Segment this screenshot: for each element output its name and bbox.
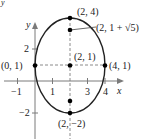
point-4-1	[103, 63, 108, 68]
figure-corner-mark: y	[0, 0, 5, 7]
y-tick-label: 2	[24, 43, 29, 54]
x-tick-label: 3	[85, 86, 90, 97]
point-label: (2, −2)	[58, 118, 85, 130]
point-label: (0, 1)	[1, 60, 23, 72]
y-axis-arrow-icon	[32, 22, 38, 29]
point-2-4	[68, 16, 73, 21]
y-tick-label: −2	[19, 107, 30, 118]
point-label: (2, 1 + √5)	[96, 22, 139, 34]
point-label: (2, 1)	[74, 51, 96, 63]
x-axis-label: x	[116, 85, 122, 96]
x-tick-label: −1	[11, 86, 22, 97]
point-2-neg2	[68, 111, 73, 116]
point-2-1-minus-sqrt5	[68, 99, 73, 104]
x-tick-label: 1	[50, 86, 55, 97]
point-2-1-plus-sqrt5	[68, 28, 73, 33]
x-axis-arrow-icon	[117, 78, 124, 84]
point-2-1	[68, 63, 73, 68]
y-axis-label: y	[25, 19, 31, 30]
point-label: (2, 4)	[77, 6, 99, 18]
ellipse-diagram: y −1 1 3 4 2 −2 x y (2, 4) (2,	[0, 0, 142, 139]
x-tick-label: 4	[103, 86, 108, 97]
point-label: (4, 1)	[109, 60, 131, 72]
point-0-1	[33, 63, 38, 68]
